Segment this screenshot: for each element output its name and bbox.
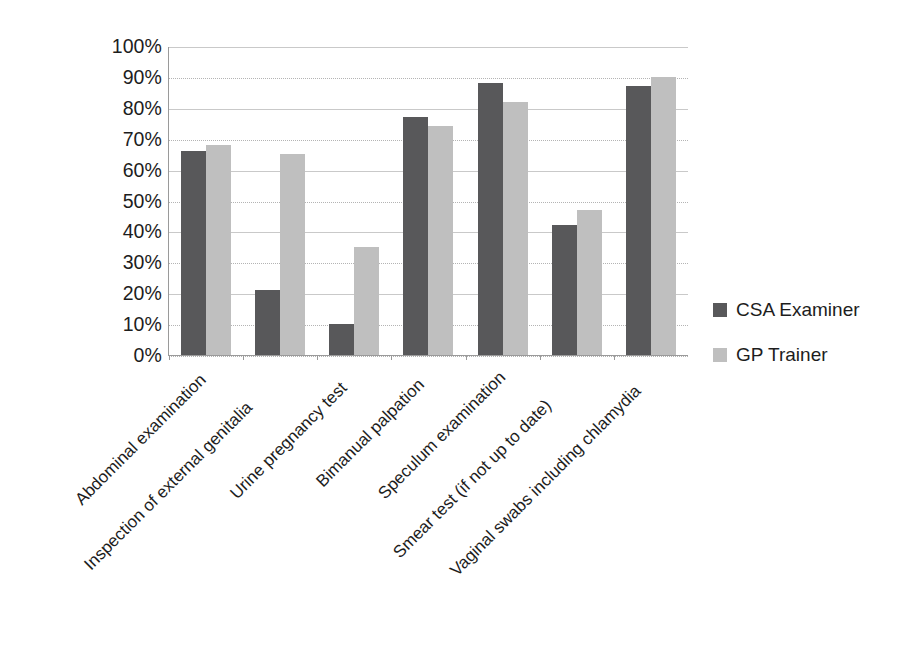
- y-axis-tick-label: 50%: [88, 192, 162, 212]
- bar-csa-examiner[interactable]: [552, 225, 577, 355]
- bar-group: [466, 47, 540, 355]
- y-axis-tick-label: 60%: [88, 161, 162, 181]
- y-axis-tick-label: 70%: [88, 130, 162, 150]
- y-axis-tick-label: 90%: [88, 68, 162, 88]
- bar-gp-trainer[interactable]: [206, 145, 231, 355]
- bar-group: [614, 47, 688, 355]
- bar-group: [169, 47, 243, 355]
- bar-csa-examiner[interactable]: [255, 290, 280, 355]
- bar-gp-trainer[interactable]: [354, 247, 379, 355]
- y-axis-tick-label: 30%: [88, 253, 162, 273]
- bar-csa-examiner[interactable]: [329, 324, 354, 355]
- bar-group: [540, 47, 614, 355]
- y-axis-tick-label: 20%: [88, 284, 162, 304]
- bar-csa-examiner[interactable]: [403, 117, 428, 355]
- bar-csa-examiner[interactable]: [626, 86, 651, 355]
- x-axis-category-labels: Abdominal examinationInspection of exter…: [0, 356, 700, 646]
- y-axis-tick-label: 10%: [88, 315, 162, 335]
- bar-group: [391, 47, 465, 355]
- chart-legend: CSA ExaminerGP Trainer: [713, 300, 898, 390]
- legend-entry[interactable]: GP Trainer: [713, 345, 898, 364]
- bar-group: [317, 47, 391, 355]
- legend-swatch-icon: [713, 303, 727, 317]
- bar-csa-examiner[interactable]: [181, 151, 206, 355]
- legend-label: GP Trainer: [736, 345, 828, 364]
- y-axis-tick-label: 100%: [88, 37, 162, 57]
- bar-gp-trainer[interactable]: [503, 102, 528, 355]
- legend-entry[interactable]: CSA Examiner: [713, 300, 898, 319]
- legend-label: CSA Examiner: [736, 300, 860, 319]
- bar-gp-trainer[interactable]: [280, 154, 305, 355]
- bar-chart-figure: 0%10%20%30%40%50%60%70%80%90%100% Abdomi…: [0, 0, 909, 672]
- x-axis-category-label: Smear test (if not up to date): [390, 397, 554, 561]
- bars-layer: [169, 47, 688, 355]
- y-axis-tick-label: 40%: [88, 222, 162, 242]
- x-axis-category-label: Abdominal examination: [72, 371, 209, 508]
- y-axis-tick-label: 80%: [88, 99, 162, 119]
- bar-gp-trainer[interactable]: [428, 126, 453, 355]
- legend-swatch-icon: [713, 348, 727, 362]
- x-axis-category-label: Speculum examination: [375, 368, 509, 502]
- bar-csa-examiner[interactable]: [478, 83, 503, 355]
- y-axis-tick-labels: 0%10%20%30%40%50%60%70%80%90%100%: [88, 32, 162, 372]
- bar-group: [243, 47, 317, 355]
- bar-gp-trainer[interactable]: [577, 210, 602, 355]
- plot-area: [168, 47, 688, 356]
- bar-gp-trainer[interactable]: [651, 77, 676, 355]
